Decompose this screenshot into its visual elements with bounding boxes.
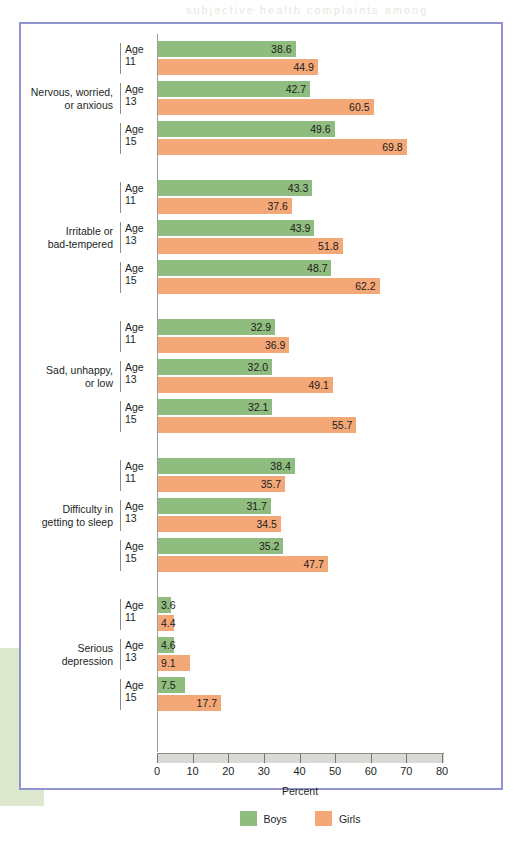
- legend-swatch-boys: [240, 811, 257, 826]
- age-label: Age13: [125, 639, 153, 663]
- age-row: Age157.517.7: [21, 676, 501, 716]
- age-label-line1: Age: [125, 679, 153, 691]
- x-axis-tick-label: 80: [436, 765, 448, 777]
- bar-value-label: 43.3: [288, 181, 308, 195]
- x-axis-tick: [157, 754, 158, 763]
- age-row: Age113.64.4: [21, 596, 501, 636]
- age-label-line2: 11: [125, 333, 153, 345]
- bar-value-label: 4.4: [161, 616, 176, 630]
- age-label-line1: Age: [125, 599, 153, 611]
- bar-girls: 17.7: [158, 695, 221, 711]
- bar-boys: 38.6: [158, 41, 296, 57]
- age-label-line2: 11: [125, 194, 153, 206]
- x-axis-tick: [406, 754, 407, 763]
- age-label: Age11: [125, 43, 153, 67]
- age-row: Age1532.155.7: [21, 398, 501, 438]
- age-label-line2: 13: [125, 373, 153, 385]
- legend-label: Boys: [264, 813, 287, 825]
- age-label-line1: Age: [125, 500, 153, 512]
- bar-value-label: 69.8: [382, 140, 402, 154]
- x-axis-tick: [300, 754, 301, 763]
- x-axis-tick: [193, 754, 194, 763]
- age-label-line1: Age: [125, 639, 153, 651]
- age-label-line1: Age: [125, 83, 153, 95]
- age-label: Age13: [125, 83, 153, 107]
- bar-value-label: 62.2: [355, 279, 375, 293]
- bar-boys: 49.6: [158, 121, 335, 137]
- bar-value-label: 38.6: [271, 42, 291, 56]
- age-label-line2: 13: [125, 95, 153, 107]
- bar-boys: 32.1: [158, 399, 272, 415]
- age-row: Age1331.734.5: [21, 497, 501, 537]
- bar-value-label: 38.4: [270, 459, 290, 473]
- bar-value-label: 31.7: [246, 499, 266, 513]
- age-label: Age13: [125, 500, 153, 524]
- bar-girls: 35.7: [158, 476, 285, 492]
- age-label-line2: 13: [125, 512, 153, 524]
- bar-girls: 55.7: [158, 417, 356, 433]
- age-row: Age1342.760.5: [21, 80, 501, 120]
- bar-value-label: 3.6: [161, 598, 176, 612]
- bar-value-label: 55.7: [332, 418, 352, 432]
- bar-boys: 31.7: [158, 498, 271, 514]
- bar-girls: 4.4: [158, 615, 174, 631]
- age-label-line2: 15: [125, 135, 153, 147]
- age-label-line1: Age: [125, 540, 153, 552]
- age-label: Age15: [125, 262, 153, 286]
- age-label: Age15: [125, 540, 153, 564]
- bar-value-label: 32.1: [248, 400, 268, 414]
- x-axis-title: Percent: [157, 785, 443, 797]
- age-label-line1: Age: [125, 182, 153, 194]
- bar-value-label: 60.5: [349, 100, 369, 114]
- bar-value-label: 34.5: [256, 517, 276, 531]
- bar-girls: 69.8: [158, 139, 407, 155]
- bar-value-label: 36.9: [265, 338, 285, 352]
- age-label-line2: 11: [125, 611, 153, 623]
- x-axis-tick: [264, 754, 265, 763]
- bar-value-label: 42.7: [286, 82, 306, 96]
- age-row: Age1138.644.9: [21, 40, 501, 80]
- category-group: Difficulty ingetting to sleepAge1138.435…: [21, 457, 501, 577]
- bar-value-label: 49.1: [308, 378, 328, 392]
- age-label-line2: 15: [125, 413, 153, 425]
- bar-value-label: 48.7: [307, 261, 327, 275]
- bar-girls: 60.5: [158, 99, 374, 115]
- x-axis-tick: [371, 754, 372, 763]
- x-axis-tick-label: 30: [258, 765, 270, 777]
- bar-value-label: 51.8: [318, 239, 338, 253]
- bar-boys: 43.3: [158, 180, 312, 196]
- x-axis-tick: [335, 754, 336, 763]
- age-label: Age15: [125, 679, 153, 703]
- bar-girls: 44.9: [158, 59, 318, 75]
- bar-boys: 35.2: [158, 538, 283, 554]
- age-label-line2: 15: [125, 691, 153, 703]
- bar-girls: 47.7: [158, 556, 328, 572]
- bar-boys: 42.7: [158, 81, 310, 97]
- legend-label: Girls: [339, 813, 361, 825]
- x-axis-band: [157, 753, 444, 763]
- bar-boys: 3.6: [158, 597, 171, 613]
- age-row: Age1535.247.7: [21, 537, 501, 577]
- age-row: Age1143.337.6: [21, 179, 501, 219]
- bar-chart: Nervous, worried,or anxiousAge1138.644.9…: [21, 24, 501, 788]
- age-label-line1: Age: [125, 222, 153, 234]
- bar-value-label: 32.9: [251, 320, 271, 334]
- bar-value-label: 7.5: [161, 678, 176, 692]
- age-row: Age1332.049.1: [21, 358, 501, 398]
- age-label: Age11: [125, 599, 153, 623]
- bar-value-label: 35.7: [261, 477, 281, 491]
- age-label-line2: 13: [125, 651, 153, 663]
- bar-girls: 36.9: [158, 337, 289, 353]
- category-group: Irritable orbad-temperedAge1143.337.6Age…: [21, 179, 501, 299]
- bar-boys: 32.0: [158, 359, 272, 375]
- legend-item: Girls: [315, 811, 361, 826]
- age-row: Age1138.435.7: [21, 457, 501, 497]
- age-label-line1: Age: [125, 123, 153, 135]
- age-label-line2: 11: [125, 55, 153, 67]
- bar-value-label: 49.6: [310, 122, 330, 136]
- bar-boys: 32.9: [158, 319, 275, 335]
- age-label-line2: 15: [125, 274, 153, 286]
- bar-girls: 51.8: [158, 238, 343, 254]
- bar-boys: 48.7: [158, 260, 331, 276]
- age-row: Age1548.762.2: [21, 259, 501, 299]
